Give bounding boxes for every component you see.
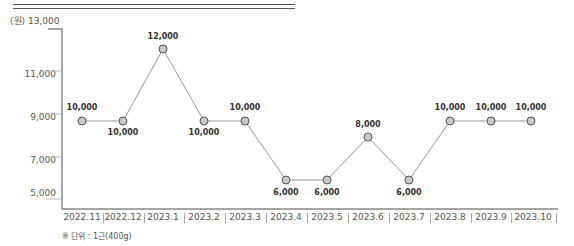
x-tick: 2022.11 [62,212,102,222]
x-tick: 2023.8 [430,212,470,222]
data-label: 6,000 [387,188,431,197]
data-label: 10,000 [182,128,226,137]
x-tick: 2022.12 [103,212,143,222]
x-separator [556,213,557,223]
data-label: 10,000 [509,103,553,112]
x-tick: 2023.5 [307,212,347,222]
data-label: 12,000 [141,32,185,41]
x-tick: 2023.9 [471,212,511,222]
x-tick: 2023.4 [266,212,306,222]
line-chart [0,0,574,246]
unit-footnote: ※ 단위 : 1근(400g) [62,230,132,241]
x-tick: 2023.6 [348,212,388,222]
data-label: 6,000 [264,188,308,197]
data-label: 10,000 [469,103,513,112]
x-tick: 2023.3 [225,212,265,222]
x-tick: 2023.1 [143,212,183,222]
data-label: 10,000 [428,103,472,112]
data-label: 8,000 [346,120,390,129]
data-label: 6,000 [305,188,349,197]
x-tick: 2023.2 [184,212,224,222]
data-label: 10,000 [223,103,267,112]
data-label: 10,000 [60,103,104,112]
x-tick: 2023.7 [389,212,429,222]
data-label: 10,000 [101,128,145,137]
x-tick: 2023.10 [511,212,555,222]
